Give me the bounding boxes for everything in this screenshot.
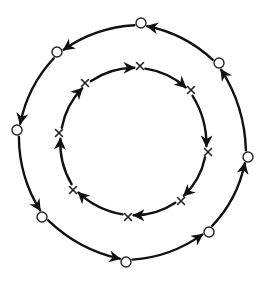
outer-edge-arrow bbox=[147, 26, 213, 60]
cross-node-icon bbox=[137, 63, 144, 70]
circle-node-icon bbox=[37, 212, 47, 222]
circle-node-icon bbox=[12, 125, 22, 135]
outer-edge-arrow bbox=[133, 234, 203, 259]
circle-node-icon bbox=[214, 58, 224, 68]
outer-edge-arrow bbox=[48, 220, 120, 258]
circle-node-icon bbox=[136, 18, 146, 28]
circle-node-icon bbox=[52, 47, 62, 57]
outer-edge-arrow bbox=[20, 58, 54, 124]
outer-edge-arrow bbox=[212, 163, 245, 226]
outer-cycle-nodes bbox=[12, 18, 253, 267]
cross-node-icon bbox=[178, 198, 185, 205]
cross-node-icon bbox=[56, 130, 63, 137]
circle-node-icon bbox=[121, 257, 131, 267]
circle-node-icon bbox=[243, 152, 253, 162]
inner-edge-arrow bbox=[145, 69, 185, 88]
outer-cycle-edges bbox=[19, 25, 246, 259]
cycle-diagram bbox=[0, 0, 267, 281]
cross-node-icon bbox=[82, 80, 89, 87]
inner-edge-arrow bbox=[62, 88, 82, 127]
cross-node-icon bbox=[125, 214, 132, 221]
inner-edge-arrow bbox=[91, 68, 135, 81]
outer-edge-arrow bbox=[64, 25, 135, 49]
cross-node-icon bbox=[70, 187, 77, 194]
inner-edge-arrow bbox=[193, 96, 207, 146]
circle-node-icon bbox=[204, 227, 214, 237]
inner-edge-arrow bbox=[60, 139, 71, 184]
inner-cycle-edges bbox=[60, 68, 206, 216]
outer-edge-arrow bbox=[221, 70, 246, 151]
cross-node-icon bbox=[188, 87, 195, 94]
inner-edge-arrow bbox=[184, 157, 205, 195]
outer-edge-arrow bbox=[19, 137, 40, 211]
cross-node-icon bbox=[205, 149, 212, 156]
inner-cycle-nodes bbox=[56, 63, 212, 221]
inner-edge-arrow bbox=[134, 203, 176, 216]
inner-edge-arrow bbox=[78, 193, 122, 215]
